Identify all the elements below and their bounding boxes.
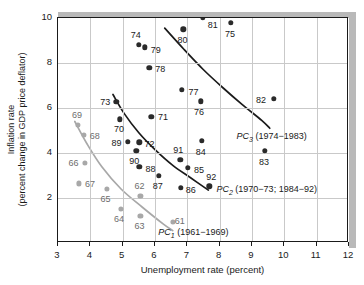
data-point-label-85: 85 <box>194 165 204 175</box>
gridline-vertical <box>284 18 285 241</box>
gridline-vertical <box>220 18 221 241</box>
data-point-label-75: 75 <box>225 29 235 39</box>
data-point-label-68: 68 <box>90 131 100 141</box>
gridline-vertical <box>252 18 253 241</box>
data-point-label-86: 86 <box>186 185 196 195</box>
data-point-label-70: 70 <box>114 124 124 134</box>
data-point-label-90: 90 <box>129 156 139 166</box>
x-tick-label: 5 <box>112 249 132 260</box>
gridline-vertical <box>187 18 188 241</box>
x-tick-mark <box>122 242 123 246</box>
curve-annotation-pc1: PC1 (1961−1969) <box>158 227 228 239</box>
x-tick-mark <box>251 242 252 246</box>
x-tick-mark <box>283 242 284 246</box>
x-tick-label: 12 <box>338 249 358 260</box>
data-point-label-80: 80 <box>177 35 187 45</box>
data-point-label-82: 82 <box>256 95 266 105</box>
x-tick-mark <box>316 242 317 246</box>
data-point-label-92: 92 <box>206 172 216 182</box>
x-tick-label: 9 <box>241 249 261 260</box>
curve-annotation-pc2: PC2 (1970−73; 1984−92) <box>216 184 317 196</box>
data-point-label-63: 63 <box>134 221 144 231</box>
data-point-label-77: 77 <box>188 87 198 97</box>
gridline-vertical <box>317 18 318 241</box>
x-tick-label: 8 <box>209 249 229 260</box>
phillips-curve-chart: Inflation rate (percent change in GDP pr… <box>0 0 364 285</box>
x-tick-label: 6 <box>144 249 164 260</box>
data-point-label-64: 64 <box>114 214 124 224</box>
data-point-label-87: 87 <box>153 181 163 191</box>
x-tick-label: 10 <box>273 249 293 260</box>
data-point-label-81: 81 <box>208 20 218 30</box>
x-tick-mark <box>154 242 155 246</box>
data-point-label-69: 69 <box>72 110 82 120</box>
data-point-label-74: 74 <box>131 30 141 40</box>
data-point-label-61: 61 <box>175 216 185 226</box>
x-tick-mark <box>89 242 90 246</box>
data-point-label-76: 76 <box>194 107 204 117</box>
data-point-label-71: 71 <box>158 112 168 122</box>
x-axis-label: Unemployment rate (percent) <box>57 264 348 275</box>
phillips-curves <box>58 18 348 242</box>
gridline-horizontal <box>58 63 347 64</box>
x-tick-label: 4 <box>79 249 99 260</box>
data-point-label-62: 62 <box>134 181 144 191</box>
data-point-label-83: 83 <box>259 157 269 167</box>
x-tick-label: 3 <box>47 249 67 260</box>
data-point-label-65: 65 <box>100 194 110 204</box>
x-tick-mark <box>186 242 187 246</box>
plot-area: 6162636465666768697071727384858687888990… <box>57 17 348 242</box>
data-point-label-88: 88 <box>145 164 155 174</box>
data-point-label-73: 73 <box>100 97 110 107</box>
x-tick-mark <box>348 242 349 246</box>
data-point-label-89: 89 <box>112 138 122 148</box>
curve-annotation-pc3: PC3 (1974−1983) <box>236 131 306 143</box>
data-point-label-91: 91 <box>173 145 183 155</box>
x-tick-mark <box>57 242 58 246</box>
data-point-label-79: 79 <box>151 45 161 55</box>
x-tick-label: 11 <box>306 249 326 260</box>
data-point-label-67: 67 <box>85 179 95 189</box>
data-point-label-84: 84 <box>196 147 206 157</box>
data-point-label-78: 78 <box>155 64 165 74</box>
x-tick-label: 7 <box>176 249 196 260</box>
data-point-label-66: 66 <box>68 158 78 168</box>
gridline-vertical <box>90 18 91 241</box>
x-tick-mark <box>219 242 220 246</box>
data-point-label-72: 72 <box>144 139 154 149</box>
